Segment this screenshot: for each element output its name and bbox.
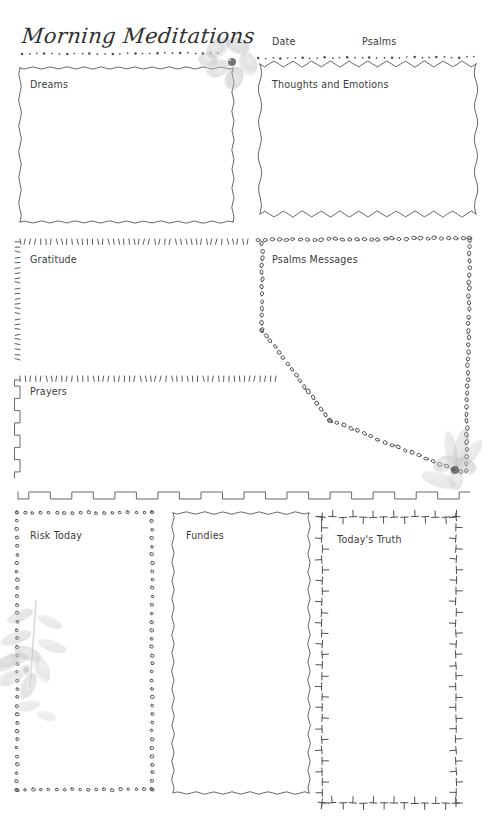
todays-truth-field[interactable] bbox=[328, 526, 450, 796]
page-title: Morning Meditations bbox=[21, 24, 256, 48]
gratitude-field[interactable] bbox=[20, 245, 248, 353]
date-field[interactable] bbox=[268, 33, 348, 49]
psalms-messages-field[interactable] bbox=[266, 245, 462, 465]
risk-today-field[interactable] bbox=[22, 522, 148, 782]
journal-page: Morning Meditations Date Psalms Dreams T… bbox=[0, 0, 488, 818]
fundies-field[interactable] bbox=[178, 522, 304, 788]
dreams-field[interactable] bbox=[20, 70, 232, 218]
thoughts-and-emotions-field[interactable] bbox=[262, 70, 472, 210]
psalms-field[interactable] bbox=[358, 33, 448, 49]
prayers-field[interactable] bbox=[20, 378, 248, 478]
